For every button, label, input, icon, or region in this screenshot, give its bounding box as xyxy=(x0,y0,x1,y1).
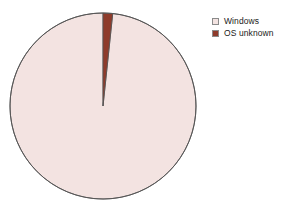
legend-label-windows: Windows xyxy=(224,16,259,27)
legend-item-os-unknown[interactable]: OS unknown xyxy=(212,28,292,39)
legend-swatch-windows xyxy=(212,18,219,25)
legend-label-os-unknown: OS unknown xyxy=(224,28,274,39)
legend-swatch-os-unknown xyxy=(212,30,219,37)
pie-slice-group xyxy=(10,13,196,199)
legend: Windows OS unknown xyxy=(212,16,292,40)
legend-item-windows[interactable]: Windows xyxy=(212,16,292,27)
pie-chart: Windows OS unknown xyxy=(0,0,295,215)
